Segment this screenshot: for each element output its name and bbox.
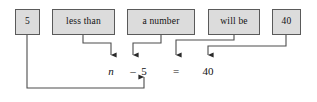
connector-40-to-40: [208, 35, 286, 55]
phrase-box-5[interactable]: 5: [15, 9, 40, 35]
equation-translation-diagram: 5 less than a number will be 40 n – 5 = …: [0, 0, 317, 102]
phrase-box-will-be[interactable]: will be: [208, 9, 260, 35]
phrase-box-will-be-label: will be: [220, 17, 248, 27]
connector-will-be-to-equals: [176, 35, 234, 55]
equation-token-5: 5: [141, 66, 147, 77]
phrase-box-5-label: 5: [25, 17, 30, 27]
phrase-box-40-label: 40: [282, 17, 292, 27]
phrase-box-a-number[interactable]: a number: [127, 9, 195, 35]
phrase-box-40[interactable]: 40: [272, 9, 301, 35]
equation-token-equals: =: [173, 66, 179, 77]
connector-a-number-to-minus: [133, 35, 161, 55]
equation-token-40: 40: [203, 66, 214, 77]
phrase-box-less-than[interactable]: less than: [52, 9, 115, 35]
connector-less-than-to-n: [83, 35, 111, 55]
connector-5-to-5: [27, 35, 144, 88]
equation-token-n: n: [108, 66, 114, 77]
equation-token-minus: –: [130, 66, 136, 77]
phrase-box-less-than-label: less than: [66, 17, 101, 27]
phrase-box-a-number-label: a number: [142, 17, 179, 27]
